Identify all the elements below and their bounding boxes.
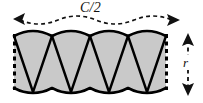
width-dimension-dashed-line — [20, 16, 172, 24]
diagram-canvas — [0, 0, 203, 103]
width-dimension-left-arrowhead — [13, 13, 25, 25]
width-dimension-label: C/2 — [80, 1, 101, 15]
width-dimension-right-arrowhead — [167, 14, 180, 26]
height-dimension-label: r — [183, 56, 188, 69]
figure-container: C/2 r — [0, 0, 203, 103]
height-dimension-up-arrowhead — [182, 33, 194, 46]
